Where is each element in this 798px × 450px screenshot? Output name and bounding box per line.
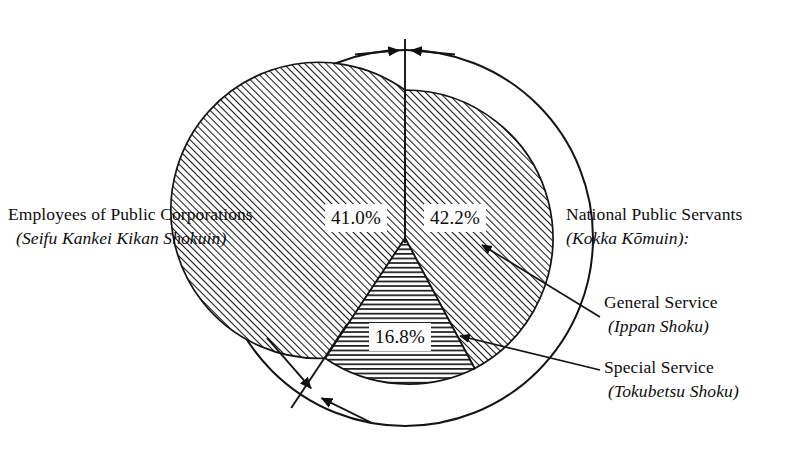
label-employees-line1: Employees of Public Corporations xyxy=(8,202,253,226)
label-national-line2-romaji: (Kokka Kōmuin): xyxy=(566,226,742,250)
label-general-line1: General Service xyxy=(604,290,718,314)
span-arrow-top-right xyxy=(411,50,455,54)
label-national-line1: National Public Servants xyxy=(566,202,742,226)
label-special-line2-romaji: (Tokubetsu Shoku) xyxy=(604,379,739,403)
label-employees-of-public-corporations: Employees of Public Corporations (Seifu … xyxy=(8,202,253,250)
span-arrow-top-left xyxy=(355,50,399,54)
label-employees-line2-romaji: (Seifu Kankei Kikan Shokuin) xyxy=(8,226,253,250)
percent-label-national-public-servants: 42.2% xyxy=(424,204,486,232)
label-national-public-servants: National Public Servants (Kokka Kōmuin): xyxy=(566,202,742,250)
percent-label-employees-of-public-corporations: 41.0% xyxy=(325,204,387,232)
percent-label-special-service: 16.8% xyxy=(369,323,431,351)
label-general-line2-romaji: (Ippan Shoku) xyxy=(604,314,718,338)
label-special-line1: Special Service xyxy=(604,355,739,379)
label-special-service: Special Service (Tokubetsu Shoku) xyxy=(604,355,739,403)
pie-chart-figure: 41.0% 42.2% 16.8% Employees of Public Co… xyxy=(0,0,798,450)
label-general-service: General Service (Ippan Shoku) xyxy=(604,290,718,338)
